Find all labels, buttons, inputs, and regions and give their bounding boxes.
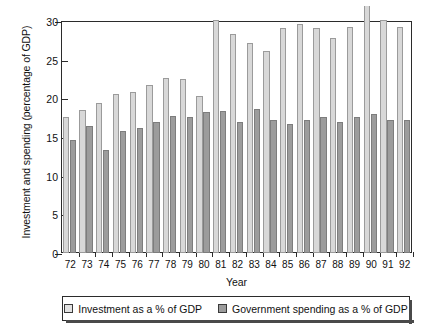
x-axis-tick-label: 83 (249, 259, 260, 270)
x-axis-tick-label: 89 (349, 259, 360, 270)
bar-investment (230, 34, 236, 253)
bar-investment (380, 20, 386, 253)
bar-government-spending (371, 114, 377, 253)
bar-government-spending (287, 124, 293, 253)
bar-group (313, 6, 326, 253)
bar-government-spending (137, 128, 143, 253)
bar-group (364, 6, 377, 253)
bar-group (96, 6, 109, 253)
bar-government-spending (270, 120, 276, 253)
bar-investment (130, 92, 136, 253)
bar-group (230, 6, 243, 253)
bar-investment (263, 51, 269, 253)
bar-group (263, 6, 276, 253)
bars-layer (61, 6, 412, 253)
bar-group (330, 6, 343, 253)
bar-government-spending (337, 122, 343, 253)
bar-investment (79, 110, 85, 253)
x-axis-tick-label: 86 (299, 259, 310, 270)
x-axis-tick-label: 90 (366, 259, 377, 270)
bar-group (180, 6, 193, 253)
x-axis-tick-label: 87 (316, 259, 327, 270)
x-axis-tick-label: 91 (382, 259, 393, 270)
bar-investment (180, 79, 186, 253)
x-axis-tick-label: 88 (332, 259, 343, 270)
legend-label-government-spending: Government spending as a % of GDP (232, 303, 408, 315)
bar-group (297, 6, 310, 253)
bar-government-spending (320, 117, 326, 253)
x-axis-tick-label: 79 (182, 259, 193, 270)
chart-legend: Investment as a % of GDP Government spen… (62, 296, 410, 321)
bar-government-spending (220, 111, 226, 253)
y-axis-tick-label: 0 (52, 248, 58, 260)
bar-investment (297, 24, 303, 253)
bar-government-spending (120, 131, 126, 253)
x-axis-tick-label: 84 (265, 259, 276, 270)
bar-government-spending (203, 112, 209, 253)
bar-government-spending (404, 120, 410, 253)
bar-investment (96, 103, 102, 253)
bar-government-spending (237, 122, 243, 253)
bar-government-spending (187, 117, 193, 253)
bar-investment (163, 78, 169, 253)
y-axis-tick-label: 5 (52, 209, 58, 221)
bar-investment (113, 94, 119, 253)
bar-series-container (61, 6, 412, 253)
light-swatch-icon (64, 304, 73, 313)
bar-group (63, 6, 76, 253)
x-axis-tick (413, 252, 414, 257)
legend-label-investment: Investment as a % of GDP (78, 303, 202, 315)
bar-group (196, 6, 209, 253)
x-axis-tick-label: 73 (82, 259, 93, 270)
bar-investment (63, 117, 69, 253)
x-axis-tick-label: 82 (232, 259, 243, 270)
x-axis-tick-label: 80 (199, 259, 210, 270)
bar-government-spending (153, 122, 159, 253)
y-axis-tick-label: 20 (46, 93, 58, 105)
bar-group (79, 6, 92, 253)
x-axis-tick-label: 77 (148, 259, 159, 270)
bar-group (213, 6, 226, 253)
dark-swatch-icon (218, 304, 227, 313)
bar-investment (146, 85, 152, 253)
legend-item-government-spending: Government spending as a % of GDP (218, 303, 408, 315)
bar-group (146, 6, 159, 253)
bar-investment (247, 43, 253, 253)
bar-group (397, 6, 410, 253)
bar-government-spending (103, 150, 109, 253)
bar-investment (313, 28, 319, 253)
x-axis-tick-label: 85 (282, 259, 293, 270)
bar-group (380, 6, 393, 253)
x-axis-tick-label: 76 (132, 259, 143, 270)
x-axis-title: Year (61, 276, 412, 288)
bar-group (280, 6, 293, 253)
y-axis-tick-label: 10 (46, 171, 58, 183)
bar-investment (196, 96, 202, 253)
bar-government-spending (387, 120, 393, 253)
bar-group (347, 6, 360, 253)
x-axis-tick-label: 78 (165, 259, 176, 270)
bar-group (247, 6, 260, 253)
bar-government-spending (170, 116, 176, 253)
bar-investment (280, 28, 286, 253)
x-axis-tick-label: 92 (399, 259, 410, 270)
bar-government-spending (86, 126, 92, 253)
bar-government-spending (304, 120, 310, 253)
bar-group (163, 6, 176, 253)
bar-investment (347, 27, 353, 253)
x-axis-tick-label: 81 (215, 259, 226, 270)
x-axis-tick-label: 74 (98, 259, 109, 270)
bar-investment (397, 27, 403, 253)
x-axis-tick-label: 75 (115, 259, 126, 270)
bar-group (113, 6, 126, 253)
legend-item-investment: Investment as a % of GDP (64, 303, 202, 315)
y-axis-tick-label: 25 (46, 55, 58, 67)
y-axis-title: Investment and spending (percentage of G… (20, 12, 32, 252)
y-axis-tick-label: 15 (46, 132, 58, 144)
y-axis-tick-label: 30 (46, 16, 58, 28)
bar-government-spending (254, 109, 260, 253)
bar-government-spending (354, 117, 360, 253)
bar-government-spending (70, 140, 76, 253)
bar-investment (213, 20, 219, 253)
bar-chart-figure: Investment and spending (percentage of G… (0, 0, 439, 335)
